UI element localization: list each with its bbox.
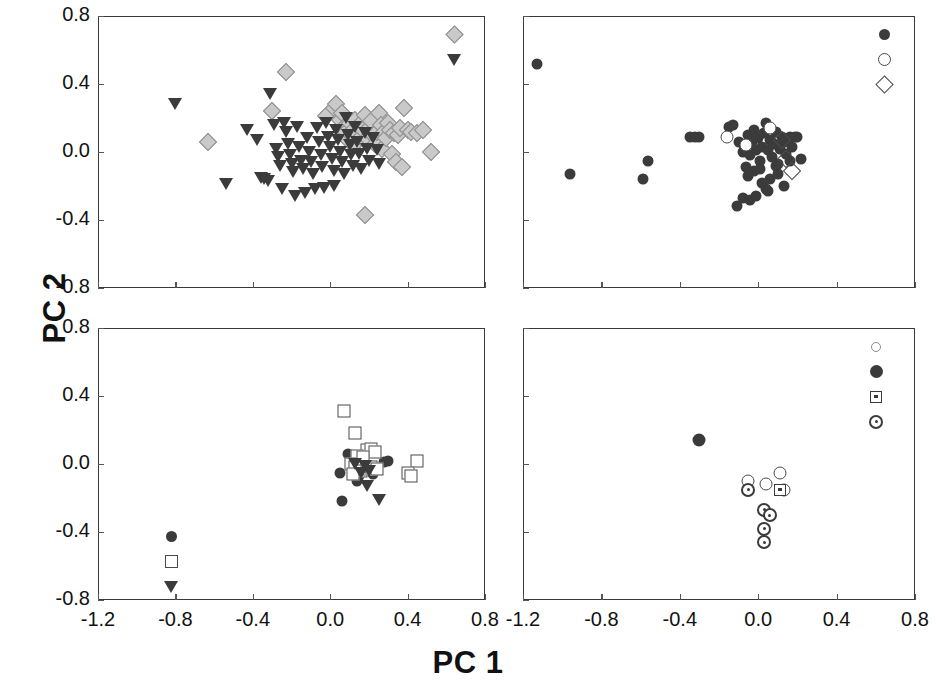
data-point	[405, 469, 418, 482]
data-point	[531, 58, 542, 69]
data-point	[778, 181, 789, 192]
y-tick-label: 0.4	[20, 383, 90, 406]
data-point	[263, 88, 277, 100]
y-tick	[523, 600, 529, 601]
legend-item[interactable]	[158, 574, 190, 599]
legend-item[interactable]	[158, 524, 190, 549]
x-tick	[330, 594, 331, 600]
x-tick-label: -1.2	[488, 608, 558, 631]
y-tick	[98, 600, 104, 601]
y-tick	[523, 152, 529, 153]
x-tick	[837, 594, 838, 600]
x-tick	[758, 282, 759, 288]
x-tick-label: -0.8	[140, 608, 210, 631]
panel-d	[523, 328, 915, 600]
legend-item[interactable]	[871, 47, 903, 72]
data-point	[360, 480, 374, 492]
x-tick	[601, 282, 602, 288]
data-point	[334, 467, 345, 478]
data-point	[763, 186, 774, 197]
x-tick	[601, 594, 602, 600]
data-point	[792, 131, 803, 142]
diamond-open-marker	[875, 75, 893, 93]
y-tick	[98, 288, 104, 289]
data-point	[327, 180, 341, 192]
data-point	[643, 155, 654, 166]
data-point	[694, 131, 705, 142]
data-point	[740, 139, 753, 152]
legend-marker	[158, 555, 184, 568]
legend-item[interactable]	[863, 334, 895, 359]
y-tick	[98, 84, 104, 85]
y-tick	[98, 532, 104, 533]
circle-open-marker	[878, 53, 891, 66]
data-point	[290, 121, 304, 133]
legend-item[interactable]	[441, 47, 473, 72]
data-point	[757, 522, 771, 536]
circle-open-small-marker	[871, 342, 881, 352]
panel-a	[98, 16, 485, 288]
data-point	[362, 465, 376, 477]
legend-marker	[863, 415, 889, 429]
x-tick	[915, 282, 916, 288]
data-point	[773, 466, 786, 479]
y-tick	[523, 220, 529, 221]
square-open-marker	[165, 555, 178, 568]
legend-marker	[863, 342, 889, 352]
data-point	[693, 434, 706, 447]
x-tick	[408, 282, 409, 288]
data-point	[337, 405, 350, 418]
y-tick	[523, 84, 529, 85]
x-tick-label: -1.2	[63, 608, 133, 631]
y-tick	[98, 328, 104, 329]
x-tick	[175, 282, 176, 288]
legend-item[interactable]	[871, 22, 903, 47]
x-tick	[485, 594, 486, 600]
data-point	[751, 191, 762, 202]
x-tick-label: 0.0	[295, 608, 365, 631]
y-tick-label: -0.8	[20, 275, 90, 298]
data-point	[383, 455, 394, 466]
y-tick	[523, 532, 529, 533]
data-point	[372, 158, 386, 170]
bullseye-marker	[869, 415, 883, 429]
y-tick-label: 0.8	[20, 3, 90, 26]
data-point	[275, 183, 289, 195]
panel-c	[98, 328, 485, 600]
legend-item[interactable]	[863, 409, 895, 434]
y-tick	[523, 464, 529, 465]
y-tick	[523, 396, 529, 397]
data-point	[731, 201, 742, 212]
y-tick-label: -0.8	[20, 587, 90, 610]
data-point	[755, 164, 766, 175]
x-tick-label: 0.8	[880, 608, 936, 631]
legend-marker	[441, 54, 467, 66]
legend-panel-c	[158, 524, 190, 599]
legend-item[interactable]	[158, 549, 190, 574]
data-point	[368, 446, 381, 459]
data-point	[763, 508, 777, 522]
data-point	[727, 119, 738, 130]
x-tick-label: 0.0	[723, 608, 793, 631]
y-tick	[98, 396, 104, 397]
x-tick-label: 0.4	[802, 608, 872, 631]
legend-item[interactable]	[871, 72, 903, 97]
triangle-down-marker	[164, 581, 178, 593]
data-point	[757, 535, 771, 549]
legend-item[interactable]	[863, 384, 895, 409]
plot-frame	[523, 16, 915, 288]
circle-filled-large-marker	[870, 365, 883, 378]
legend-marker	[441, 28, 467, 41]
plot-frame	[523, 328, 915, 600]
legend-item[interactable]	[863, 359, 895, 384]
legend-marker	[863, 365, 889, 378]
data-point	[372, 494, 386, 506]
legend-item[interactable]	[441, 22, 473, 47]
circle-filled-marker	[166, 531, 177, 542]
square-dotted-marker	[870, 391, 882, 403]
x-tick	[253, 594, 254, 600]
y-tick-label: 0.0	[20, 451, 90, 474]
legend-marker	[871, 29, 897, 40]
x-tick	[680, 594, 681, 600]
x-tick	[837, 282, 838, 288]
